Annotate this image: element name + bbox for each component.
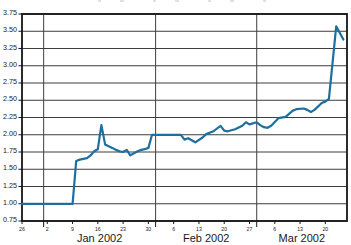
x-tick-label: 6 xyxy=(172,226,175,232)
y-tick-label: 2.75 xyxy=(3,77,17,86)
x-tick-label: 9 xyxy=(71,226,74,232)
x-tick-label: 2 xyxy=(46,226,49,232)
y-tick-label: 3.75 xyxy=(3,8,17,17)
month-label: Feb 2002 xyxy=(183,232,229,244)
x-tick-label: 30 xyxy=(145,226,151,232)
x-tick-label: 6 xyxy=(273,226,276,232)
y-tick-label: 1.75 xyxy=(3,146,17,155)
month-label: Jan 2002 xyxy=(77,232,122,244)
chart-screenshot: 3.753.503.253.002.752.502.252.001.751.50… xyxy=(0,0,351,245)
y-tick-label: 3.50 xyxy=(3,25,17,34)
y-tick-label: 1.25 xyxy=(3,181,17,190)
y-tick-label: 3.25 xyxy=(3,43,17,52)
y-tick-label: 2.00 xyxy=(3,129,17,138)
y-tick-label: 2.50 xyxy=(3,94,17,103)
y-tick-label: 3.00 xyxy=(3,60,17,69)
x-tick-label: 26 xyxy=(19,226,25,232)
y-tick-label: 0.75 xyxy=(3,215,17,224)
month-label: Mar 2002 xyxy=(279,232,325,244)
price-line xyxy=(22,26,343,203)
cropped-title-remnant xyxy=(98,0,278,2)
line-chart: 3.753.503.253.002.752.502.252.001.751.50… xyxy=(0,0,351,245)
y-tick-label: 1.50 xyxy=(3,163,17,172)
x-tick-label: 27 xyxy=(247,226,253,232)
y-tick-label: 1.00 xyxy=(3,198,17,207)
y-tick-label: 2.25 xyxy=(3,112,17,121)
